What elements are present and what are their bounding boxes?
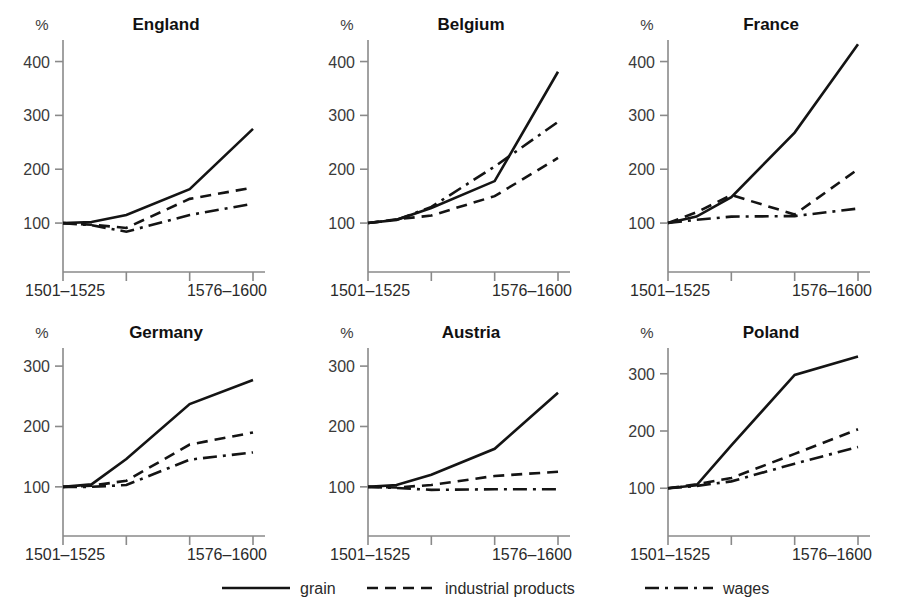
y-tick-label: 400: [23, 54, 50, 71]
series-line-grain: [63, 380, 253, 487]
y-axis-unit-label: %: [35, 16, 48, 33]
legend: grainindustrial productswages: [0, 566, 914, 605]
panel-title-austria: Austria: [442, 323, 501, 342]
y-tick-label: 100: [23, 479, 50, 496]
x-axis-label-end: 1576–1600: [492, 546, 572, 563]
y-tick-label: 200: [23, 418, 50, 435]
series-line-industrial-products: [368, 158, 558, 223]
panel-grid: %England1002003004001501–15251576–1600 %…: [0, 0, 914, 566]
panel-austria: %Austria1002003001501–15251576–1600: [305, 310, 605, 566]
y-axis-unit-label: %: [640, 16, 653, 33]
y-axis-unit-label: %: [640, 324, 653, 341]
panel-germany: %Germany1002003001501–15251576–1600: [0, 310, 305, 566]
y-tick-label: 100: [328, 215, 355, 232]
x-axis-label-start: 1501–1525: [330, 282, 410, 299]
y-tick-label: 100: [23, 215, 50, 232]
y-tick-label: 200: [328, 418, 355, 435]
series-line-wages: [368, 122, 558, 223]
series-line-industrial-products: [668, 429, 858, 488]
y-axis-unit-label: %: [35, 324, 48, 341]
panel-france: %France1002003004001501–15251576–1600: [605, 0, 914, 310]
series-line-grain: [668, 357, 858, 489]
panel-england: %England1002003004001501–15251576–1600: [0, 0, 305, 310]
panel-germany-plot: %Germany1002003001501–15251576–1600: [0, 310, 305, 566]
legend-plot: grainindustrial productswages: [0, 566, 914, 605]
panel-title-poland: Poland: [743, 323, 800, 342]
x-axis-label-start: 1501–1525: [630, 282, 710, 299]
panel-france-plot: %France1002003004001501–15251576–1600: [605, 0, 914, 310]
price-revolution-figure: %England1002003004001501–15251576–1600 %…: [0, 0, 914, 605]
panel-poland-plot: %Poland1002003001501–15251576–1600: [605, 310, 914, 566]
y-tick-label: 200: [628, 423, 655, 440]
series-line-wages: [63, 204, 253, 232]
panel-title-france: France: [743, 15, 799, 34]
y-tick-label: 100: [628, 215, 655, 232]
y-tick-label: 100: [328, 479, 355, 496]
series-line-wages: [63, 452, 253, 486]
x-axis-label-end: 1576–1600: [792, 546, 872, 563]
y-tick-label: 200: [628, 161, 655, 178]
panel-belgium: %Belgium1002003004001501–15251576–1600: [305, 0, 605, 310]
series-line-grain: [368, 72, 558, 223]
series-line-industrial-products: [63, 433, 253, 487]
y-tick-label: 300: [23, 107, 50, 124]
panel-belgium-plot: %Belgium1002003004001501–15251576–1600: [305, 0, 605, 310]
y-tick-label: 100: [628, 480, 655, 497]
x-axis-label-start: 1501–1525: [630, 546, 710, 563]
x-axis-label-start: 1501–1525: [25, 546, 105, 563]
x-axis-label-end: 1576–1600: [492, 282, 572, 299]
panel-england-plot: %England1002003004001501–15251576–1600: [0, 0, 305, 310]
legend-label-industrial-products: industrial products: [445, 580, 575, 597]
x-axis-label-end: 1576–1600: [792, 282, 872, 299]
legend-label-grain: grain: [300, 580, 336, 597]
x-axis-label-end: 1576–1600: [187, 282, 267, 299]
y-axis-unit-label: %: [340, 324, 353, 341]
x-axis-label-end: 1576–1600: [187, 546, 267, 563]
series-line-grain: [63, 129, 253, 223]
y-axis-unit-label: %: [340, 16, 353, 33]
y-tick-label: 200: [328, 161, 355, 178]
panel-title-belgium: Belgium: [437, 15, 504, 34]
y-tick-label: 400: [328, 54, 355, 71]
y-tick-label: 200: [23, 161, 50, 178]
y-tick-label: 300: [328, 358, 355, 375]
series-line-grain: [668, 44, 858, 223]
panel-austria-plot: %Austria1002003001501–15251576–1600: [305, 310, 605, 566]
legend-label-wages: wages: [722, 580, 769, 597]
y-tick-label: 300: [628, 366, 655, 383]
y-tick-label: 300: [628, 107, 655, 124]
series-line-wages: [668, 447, 858, 488]
y-tick-label: 300: [23, 358, 50, 375]
x-axis-label-start: 1501–1525: [25, 282, 105, 299]
series-line-industrial-products: [668, 169, 858, 223]
y-tick-label: 400: [628, 54, 655, 71]
panel-poland: %Poland1002003001501–15251576–1600: [605, 310, 914, 566]
panel-title-germany: Germany: [129, 323, 203, 342]
y-tick-label: 300: [328, 107, 355, 124]
panel-title-england: England: [132, 15, 199, 34]
x-axis-label-start: 1501–1525: [330, 546, 410, 563]
